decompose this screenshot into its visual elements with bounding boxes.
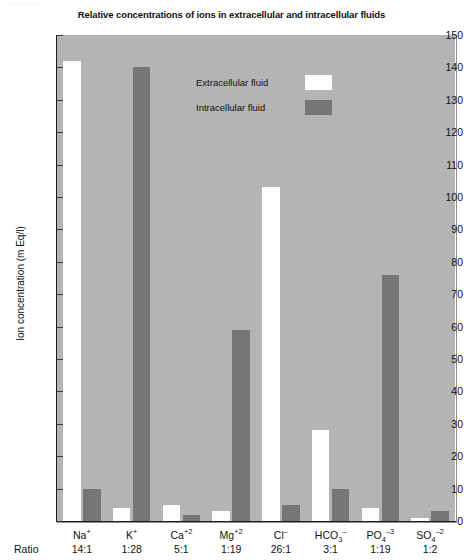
y-axis-tick-label: 120	[417, 126, 463, 138]
y-axis-line	[56, 35, 57, 522]
y-axis-tick-label: 70	[417, 288, 463, 300]
bar-extracellular	[212, 511, 230, 521]
y-axis-tick	[57, 197, 63, 198]
legend-item-extracellular: Extracellular fluid	[196, 73, 332, 91]
legend-label-intracellular: Intracellular fluid	[196, 102, 299, 113]
y-axis-tick-label: 110	[417, 159, 463, 171]
bar-intracellular	[431, 511, 449, 521]
bar-intracellular	[282, 505, 300, 521]
y-axis-tick	[57, 229, 63, 230]
y-axis-tick	[57, 456, 63, 457]
bar-extracellular	[411, 518, 429, 521]
y-axis-tick	[57, 424, 63, 425]
y-axis-tick	[57, 100, 63, 101]
y-axis-tick	[57, 489, 63, 490]
y-axis-tick-label: 20	[417, 450, 463, 462]
bar-intracellular	[382, 275, 400, 521]
y-axis-tick	[57, 521, 63, 522]
y-axis-tick	[57, 165, 63, 166]
y-axis-tick	[57, 359, 63, 360]
y-axis-tick	[57, 67, 63, 68]
ratio-row-label: Ratio	[14, 543, 39, 555]
bar-extracellular	[113, 508, 131, 521]
y-axis-tick-label: 90	[417, 223, 463, 235]
y-axis-tick	[57, 35, 63, 36]
legend-swatch-intracellular	[305, 100, 332, 115]
x-axis-ion-label: SO4–2	[390, 527, 468, 544]
y-axis-tick-label: 130	[417, 94, 463, 106]
bar-intracellular	[133, 67, 151, 521]
y-axis-tick-label: 10	[417, 483, 463, 495]
y-axis-tick	[57, 132, 63, 133]
y-axis-tick-label: 30	[417, 418, 463, 430]
bar-intracellular	[332, 489, 350, 521]
legend-label-extracellular: Extracellular fluid	[196, 77, 299, 88]
bar-intracellular	[232, 330, 250, 521]
y-axis-tick	[57, 262, 63, 263]
chart-legend: Extracellular fluid Intracellular fluid	[196, 73, 332, 123]
scan-artifact-text: ......................	[2, 0, 43, 6]
bar-extracellular	[312, 430, 330, 521]
y-axis-tick-label: 140	[417, 61, 463, 73]
y-axis-tick-label: 40	[417, 385, 463, 397]
y-axis-tick-label: 150	[417, 29, 463, 41]
y-axis-tick	[57, 327, 63, 328]
bar-extracellular	[262, 187, 280, 521]
y-axis-tick-label: 100	[417, 191, 463, 203]
y-axis-tick-label: 60	[417, 321, 463, 333]
x-axis-line	[56, 521, 456, 522]
y-axis-tick	[57, 294, 63, 295]
y-axis-tick-label: 80	[417, 256, 463, 268]
bar-extracellular	[163, 505, 181, 521]
bar-extracellular	[362, 508, 380, 521]
x-axis-ratio-label: 1:2	[390, 543, 468, 555]
y-axis-tick	[57, 391, 63, 392]
bar-intracellular	[183, 515, 201, 521]
bar-intracellular	[83, 489, 101, 521]
y-axis-tick-label: 50	[417, 353, 463, 365]
legend-item-intracellular: Intracellular fluid	[196, 98, 332, 116]
chart-title: Relative concentrations of ions in extra…	[0, 9, 463, 20]
y-axis-title: Ion concentration (m Eq/l)	[15, 184, 26, 384]
legend-swatch-extracellular	[305, 75, 332, 90]
bar-extracellular	[63, 61, 81, 521]
